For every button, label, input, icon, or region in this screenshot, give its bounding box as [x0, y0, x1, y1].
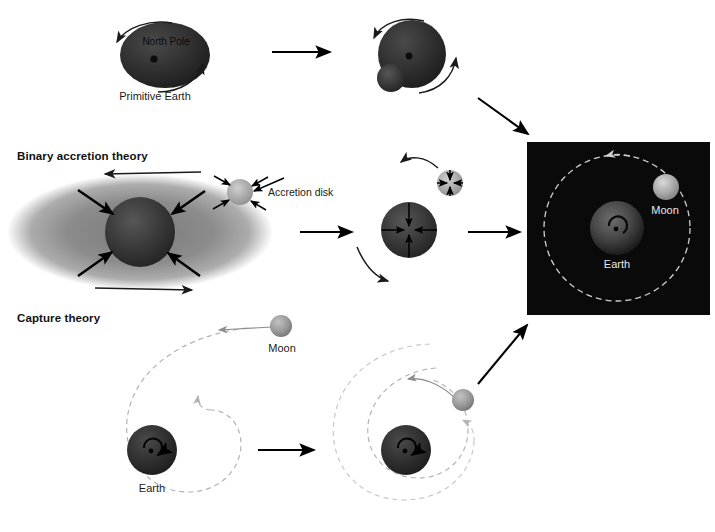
moon-infall-arrow-ne [252, 177, 268, 186]
accreting-moon-body [227, 179, 253, 205]
lunar-origin-diagram: North Pole Primitive Earth Binary accret… [0, 0, 715, 532]
binary-accretion-heading: Binary accretion theory [17, 150, 148, 162]
stage-primitive-earth: North Pole Primitive Earth [117, 22, 210, 102]
final-moon-body [653, 174, 679, 200]
capture-moon-label-1: Moon [268, 342, 296, 354]
accretion-disk-callout-label: Accretion disk [268, 186, 334, 198]
north-pole-point [150, 55, 157, 62]
capture-earth-pole-1 [149, 449, 154, 454]
final-moon-label: Moon [651, 204, 679, 216]
fission-theory-group: North Pole Primitive Earth [117, 19, 528, 134]
fission-pole-point [406, 53, 413, 60]
capture-earth-pole-2 [403, 449, 408, 454]
capture-to-final-arrow [478, 325, 527, 384]
fission-bulge-body [377, 64, 405, 92]
north-pole-label: North Pole [142, 36, 190, 47]
stage-accretion-coalesced [357, 158, 463, 281]
moon-infall-arrow-nw [214, 176, 230, 185]
primitive-earth-caption: Primitive Earth [119, 90, 191, 102]
coalesced-rotation-arrow-bottom [357, 247, 388, 281]
capture-spiral-arrowhead-1 [198, 396, 211, 410]
disk-rotation-arrow-bottom [95, 288, 192, 290]
capture-earth-label-1: Earth [139, 482, 165, 494]
primitive-earth-body [120, 22, 210, 88]
accreting-earth-body [105, 197, 175, 267]
final-earth-pole [614, 227, 619, 232]
stage-capture-approach: Moon Earth [127, 315, 296, 494]
binary-accretion-theory-group: Binary accretion theory [7, 150, 520, 290]
stage-capture-spiral [333, 344, 474, 500]
capture-moon-trajectory-2 [408, 379, 455, 398]
disk-rotation-arrow-top [105, 172, 201, 174]
final-earth-moon-panel: Earth Moon [527, 142, 710, 315]
capture-moon-body-1 [270, 315, 292, 337]
fission-to-final-arrow [478, 98, 528, 134]
coalesced-rotation-arrow-top [401, 158, 438, 168]
stage-fission-bulge [374, 19, 456, 93]
stage-accretion-disk: Accretion disk [7, 172, 334, 290]
moon-approach-vector [219, 327, 272, 330]
capture-theory-group: Capture theory Moon Earth [17, 312, 527, 500]
diagram-canvas: North Pole Primitive Earth Binary accret… [0, 0, 715, 532]
capture-theory-heading: Capture theory [17, 312, 101, 324]
capture-moon-body-2 [452, 389, 474, 411]
final-earth-label: Earth [604, 258, 630, 270]
